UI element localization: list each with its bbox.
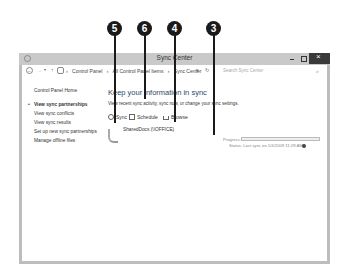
status-text: Status: Last sync on 1/4/2009 11:28 AM: [229, 143, 303, 148]
callout-badge-3: 3: [206, 21, 221, 36]
sidebar-control-panel-home[interactable]: Control Panel Home: [34, 88, 77, 93]
help-icon[interactable]: [302, 144, 306, 148]
sync-partnership-item[interactable]: SharedDocs (\\OFFICE) Progress: Status: …: [108, 127, 326, 149]
minimize-button[interactable]: [287, 53, 297, 64]
breadcrumb-separator: ›: [66, 68, 68, 74]
schedule-icon: [129, 114, 135, 120]
progress-label: Progress:: [223, 137, 241, 142]
sidebar-item-view-sync-results[interactable]: View sync results: [34, 120, 71, 125]
search-placeholder: Search Sync Center: [223, 68, 263, 73]
breadcrumb-separator[interactable]: ›: [107, 68, 109, 74]
breadcrumb-separator[interactable]: ›: [168, 68, 170, 74]
sidebar-item-view-sync-partnerships[interactable]: View sync partnerships: [34, 102, 88, 107]
browse-icon: [163, 116, 169, 120]
callout-line-3: [213, 35, 215, 135]
breadcrumb: › Control Panel › All Control Panel Item…: [66, 68, 204, 74]
breadcrumb-all-items[interactable]: All Control Panel Items: [113, 68, 164, 74]
back-button[interactable]: ←: [26, 67, 33, 74]
recent-locations-dropdown[interactable]: ▾: [44, 67, 46, 72]
sync-label: Sync: [116, 114, 127, 120]
callout-badge-5: 5: [107, 21, 122, 36]
sync-button[interactable]: Sync: [108, 114, 127, 120]
forward-button[interactable]: →: [37, 67, 42, 73]
search-icon[interactable]: ⌕: [316, 67, 319, 75]
control-panel-icon: [57, 67, 64, 74]
partnership-name: SharedDocs (\\OFFICE): [123, 127, 174, 132]
refresh-button[interactable]: ↻: [205, 67, 209, 73]
breadcrumb-control-panel[interactable]: Control Panel: [72, 68, 102, 74]
schedule-label: Schedule: [137, 114, 158, 120]
sidebar-item-manage-offline-files[interactable]: Manage offline files: [34, 138, 75, 143]
callout-line-4: [174, 35, 176, 122]
progress-bar: [241, 137, 320, 141]
callout-badge-6: 6: [137, 21, 152, 36]
callout-line-6: [144, 35, 146, 99]
search-input[interactable]: Search Sync Center ⌕: [220, 67, 325, 75]
sidebar-item-view-sync-conflicts[interactable]: View sync conflicts: [34, 111, 74, 116]
callout-badge-4: 4: [167, 21, 182, 36]
up-button[interactable]: ↑: [51, 67, 54, 73]
schedule-button[interactable]: Schedule: [129, 114, 158, 120]
maximize-button[interactable]: [298, 53, 308, 64]
sidebar-item-set-up-new-sync-partnerships[interactable]: Set up new sync partnerships: [34, 129, 97, 134]
page-title: Keep your information in sync: [108, 88, 207, 97]
callout-line-5: [114, 35, 116, 123]
sync-folder-icon: [108, 129, 118, 143]
address-dropdown[interactable]: ▾: [196, 68, 199, 73]
close-button[interactable]: [309, 53, 330, 64]
active-bullet-icon: •: [28, 101, 30, 107]
